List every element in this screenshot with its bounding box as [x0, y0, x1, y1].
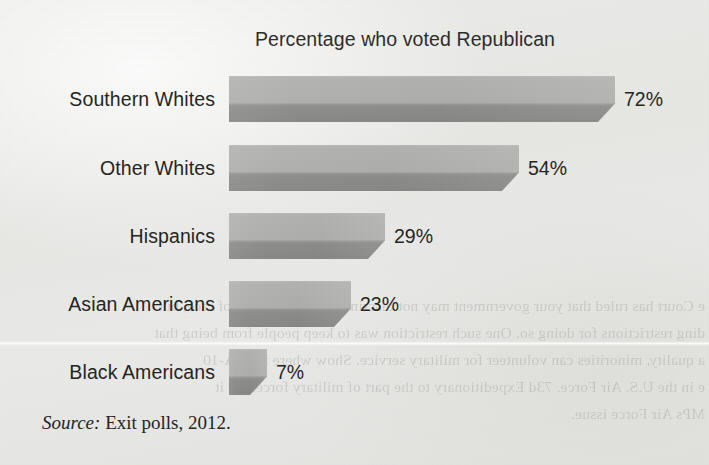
bar-value-label: 29% — [394, 225, 433, 248]
source-note: Source: Exit polls, 2012. — [42, 412, 231, 434]
bar-row: Asian Americans23% — [0, 281, 709, 327]
bar-row: Southern Whites72% — [0, 76, 709, 122]
bar-value-label: 54% — [528, 157, 567, 180]
category-label: Other Whites — [0, 157, 215, 180]
bar-row: Other Whites54% — [0, 145, 709, 191]
bar-fill — [229, 76, 615, 122]
bar-fill — [229, 213, 385, 259]
scan-seam — [0, 341, 709, 346]
chart-title: Percentage who voted Republican — [229, 28, 581, 51]
figure-page: e Court has ruled that your government m… — [0, 0, 709, 465]
bar-other-whites — [229, 145, 519, 191]
category-label: Hispanics — [0, 225, 215, 248]
category-label: Black Americans — [0, 361, 215, 384]
bar-fill — [229, 281, 351, 327]
source-text: Exit polls, 2012. — [105, 412, 231, 433]
bar-fill — [229, 145, 519, 191]
bar-value-label: 23% — [360, 293, 399, 316]
bar-asian-americans — [229, 281, 351, 327]
bar-row: Hispanics29% — [0, 213, 709, 259]
bar-southern-whites — [229, 76, 615, 122]
bar-fill — [229, 349, 267, 395]
bar-black-americans — [229, 349, 267, 395]
category-label: Southern Whites — [0, 88, 215, 111]
source-label: Source: — [42, 412, 105, 433]
bar-value-label: 7% — [276, 361, 304, 384]
bar-row: Black Americans7% — [0, 349, 709, 395]
bar-hispanics — [229, 213, 385, 259]
category-label: Asian Americans — [0, 293, 215, 316]
bar-value-label: 72% — [624, 88, 663, 111]
